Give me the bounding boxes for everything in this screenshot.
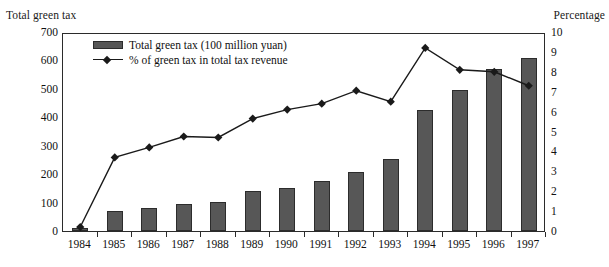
- x-axis-tick-label: 1988: [206, 238, 229, 250]
- y2-axis-tick-label: 0: [551, 226, 581, 238]
- y-axis-tick-label: 100: [18, 198, 58, 210]
- diamond-marker-icon: [111, 153, 119, 161]
- y2-axis-tick-label: 4: [551, 146, 581, 158]
- x-axis-tick-label: 1991: [309, 238, 332, 250]
- line-with-diamond-marker-icon: [93, 56, 123, 64]
- x-axis-tick-label: 1984: [68, 238, 91, 250]
- chart-figure: Total green tax Percentage 0100200300400…: [0, 0, 609, 267]
- y2-axis-tick-label: 10: [551, 27, 581, 39]
- diamond-marker-icon: [352, 87, 360, 95]
- y2-axis-tick-label: 8: [551, 67, 581, 79]
- y2-axis-tick-label: 9: [551, 47, 581, 59]
- y2-axis-tick-label: 1: [551, 206, 581, 218]
- diamond-marker-icon: [249, 114, 257, 122]
- legend-label-line: % of green tax in total tax revenue: [129, 54, 290, 66]
- x-axis-tick-label: 1993: [378, 238, 401, 250]
- legend-label-bar: Total green tax (100 million yuan): [129, 39, 289, 51]
- x-axis-tick-label: 1986: [137, 238, 160, 250]
- diamond-marker-icon: [145, 143, 153, 151]
- x-axis-tick-label: 1992: [344, 238, 367, 250]
- y-axis-tick-label: 600: [18, 55, 58, 67]
- y2-axis-tick-label: 7: [551, 87, 581, 99]
- y-axis-tick-label: 300: [18, 141, 58, 153]
- legend-item-bar: Total green tax (100 million yuan): [75, 37, 290, 52]
- line-path: [80, 48, 529, 227]
- diamond-marker-icon: [490, 68, 498, 76]
- y-axis-tick-label: 400: [18, 112, 58, 124]
- y-axis-tick-label: 0: [18, 226, 58, 238]
- x-axis-tick-label: 1996: [482, 238, 505, 250]
- y2-axis-tick-label: 5: [551, 127, 581, 139]
- legend: Total green tax (100 million yuan) % of …: [75, 37, 290, 67]
- y2-axis-tick-label: 2: [551, 186, 581, 198]
- diamond-marker-icon: [76, 223, 84, 231]
- y2-axis-tick-label: 3: [551, 166, 581, 178]
- diamond-marker-icon: [421, 44, 429, 52]
- x-axis-tick-label: 1987: [171, 238, 194, 250]
- diamond-marker-icon: [283, 106, 291, 114]
- x-axis-tick-label: 1985: [102, 238, 125, 250]
- y-axis-tick-label: 500: [18, 84, 58, 96]
- diamond-marker-icon: [456, 66, 464, 74]
- y-axis-tick-label: 200: [18, 169, 58, 181]
- diamond-marker-icon: [318, 100, 326, 108]
- x-axis-tick-label: 1997: [516, 238, 539, 250]
- x-axis-tick-label: 1994: [413, 238, 436, 250]
- x-axis-tick-label: 1989: [240, 238, 263, 250]
- diamond-marker-icon: [387, 98, 395, 106]
- diamond-marker-icon: [180, 132, 188, 140]
- filled-rectangle-icon: [93, 41, 123, 49]
- plot-area: Total green tax (100 million yuan) % of …: [62, 33, 545, 232]
- diamond-marker-icon: [525, 82, 533, 90]
- right-axis-title: Percentage: [554, 9, 605, 21]
- left-axis-title: Total green tax: [6, 9, 76, 21]
- diamond-marker-icon: [214, 133, 222, 141]
- x-axis-tick-label: 1990: [275, 238, 298, 250]
- x-axis-tick-label: 1995: [447, 238, 470, 250]
- y-axis-tick-label: 700: [18, 27, 58, 39]
- y2-axis-tick-label: 6: [551, 107, 581, 119]
- legend-item-line: % of green tax in total tax revenue: [75, 52, 290, 67]
